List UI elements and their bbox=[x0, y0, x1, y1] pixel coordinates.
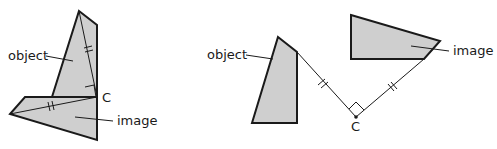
diagram-right: C object image bbox=[207, 15, 494, 134]
object-shape bbox=[252, 37, 297, 123]
object-label: object bbox=[8, 48, 48, 63]
construction-line-image bbox=[356, 59, 424, 117]
image-shape bbox=[10, 97, 97, 140]
image-shape bbox=[351, 15, 440, 59]
center-label: C bbox=[102, 90, 111, 105]
object-shape bbox=[52, 11, 97, 97]
center-label: C bbox=[351, 119, 360, 134]
construction-line-object bbox=[297, 52, 356, 117]
object-label: object bbox=[207, 47, 247, 62]
diagram-left: object image C bbox=[8, 11, 158, 140]
object-leader-line bbox=[246, 55, 273, 59]
right-angle-marker bbox=[349, 102, 364, 110]
image-label: image bbox=[453, 43, 494, 58]
equal-tick-marks-object bbox=[318, 79, 328, 88]
image-label: image bbox=[117, 113, 158, 128]
rotation-diagrams: object image C C object image bbox=[0, 0, 497, 149]
